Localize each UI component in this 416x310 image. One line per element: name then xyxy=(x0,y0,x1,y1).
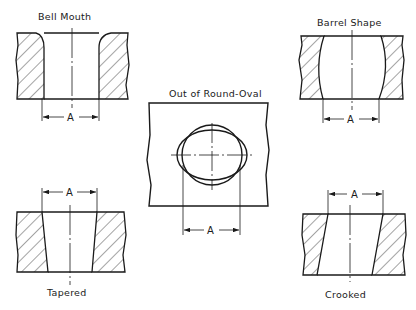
bell-mouth-label: Bell Mouth xyxy=(38,11,91,22)
crooked-left-wall xyxy=(302,214,328,275)
tapered-right-wall xyxy=(92,212,126,272)
panel-crooked: A Crooked xyxy=(302,189,406,300)
barrel-shape-label: Barrel Shape xyxy=(317,17,382,28)
bell-mouth-left-wall xyxy=(16,33,44,99)
panel-barrel-shape: Barrel Shape A xyxy=(299,17,404,125)
panel-out-of-round-oval: Out of Round-Oval A xyxy=(147,88,269,236)
tapered-left-wall xyxy=(16,212,48,272)
tapered-dimension-a: A xyxy=(66,187,73,198)
barrel-left-wall xyxy=(299,36,324,99)
barrel-shape-dimension-a: A xyxy=(347,114,354,125)
bell-mouth-dimension-a: A xyxy=(67,112,74,123)
tapered-label: Tapered xyxy=(46,287,87,298)
oval-dimension-a: A xyxy=(207,225,214,236)
crooked-dimension-a: A xyxy=(351,189,358,200)
panel-tapered: A Tapered xyxy=(16,187,126,298)
bell-mouth-right-wall xyxy=(99,33,129,99)
barrel-right-wall xyxy=(379,36,404,99)
oval-plate-outline xyxy=(147,103,269,206)
panel-bell-mouth: Bell Mouth A xyxy=(16,11,129,123)
hole-defects-diagram: Bell Mouth A Barrel Shape A Out of Round… xyxy=(0,0,416,310)
crooked-right-wall xyxy=(372,214,406,275)
crooked-label: Crooked xyxy=(325,289,366,300)
out-of-round-oval-label: Out of Round-Oval xyxy=(169,88,262,99)
